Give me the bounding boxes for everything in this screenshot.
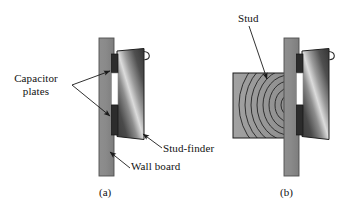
- panel-a-capacitor-plate-upper: [112, 54, 119, 73]
- panel-b-capacitor-plate-lower: [297, 105, 304, 135]
- caption-panel-b: (b): [280, 186, 293, 198]
- panel-b-stud-leader: [249, 26, 267, 79]
- panel-a-capacitor-plate-lower: [112, 105, 119, 135]
- caption-panel-a: (a): [99, 186, 111, 198]
- figure-root: Capacitor plates Stud-finder Wall board …: [0, 0, 356, 209]
- label-wall-board: Wall board: [131, 160, 180, 173]
- panel-a-stud-finder-leader: [143, 134, 162, 148]
- figure-illustration: [0, 0, 356, 209]
- panel-a: [72, 38, 162, 176]
- panel-b-capacitor-plates: [297, 54, 304, 135]
- panel-a-plate-gap: [112, 73, 119, 105]
- label-capacitor-plates: Capacitor plates: [4, 72, 68, 97]
- panel-b-stud-finder: [302, 49, 334, 140]
- label-stud-finder: Stud-finder: [163, 142, 214, 155]
- panel-b: [233, 26, 339, 176]
- panel-a-stud-finder: [117, 49, 149, 140]
- panel-a-capacitor-plates: [112, 54, 119, 135]
- label-stud: Stud: [238, 12, 259, 25]
- panel-b-capacitor-plate-upper: [297, 54, 304, 73]
- panel-b-plate-gap: [297, 73, 304, 105]
